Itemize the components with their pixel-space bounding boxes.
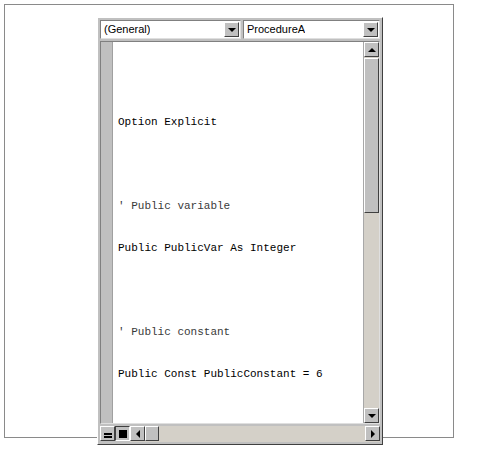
triangle-up-icon	[368, 48, 376, 52]
chevron-down-icon	[367, 28, 375, 32]
triangle-right-icon	[371, 430, 375, 438]
figure-frame: (General) ProcedureA	[4, 4, 454, 438]
code-line	[118, 157, 379, 171]
bottom-bar	[100, 425, 380, 442]
procedure-combo[interactable]: ProcedureA	[243, 20, 380, 39]
triangle-down-icon	[368, 414, 376, 418]
combo-bar: (General) ProcedureA	[100, 20, 380, 40]
code-editor-region: Option Explicit ' Public variable Public…	[100, 41, 380, 424]
scroll-up-button[interactable]	[364, 42, 379, 57]
vertical-scrollbar-thumb[interactable]	[364, 58, 379, 213]
vertical-scrollbar[interactable]	[363, 42, 379, 423]
code-line	[118, 409, 379, 423]
horizontal-scrollbar-thumb[interactable]	[145, 426, 159, 441]
procedure-view-button[interactable]	[100, 426, 115, 441]
triangle-left-icon	[136, 430, 140, 438]
vba-code-window: (General) ProcedureA	[97, 17, 383, 445]
object-combo-dropdown-button[interactable]	[224, 22, 239, 37]
procedure-combo-value: ProcedureA	[244, 21, 305, 38]
procedure-combo-dropdown-button[interactable]	[363, 22, 378, 37]
procedure-view-icon	[104, 433, 112, 435]
code-text-area[interactable]: Option Explicit ' Public variable Public…	[113, 42, 379, 423]
scroll-left-button[interactable]	[130, 426, 145, 441]
object-combo-value: (General)	[101, 21, 150, 38]
chevron-down-icon	[228, 28, 236, 32]
horizontal-scrollbar[interactable]	[130, 426, 380, 442]
code-content: Option Explicit ' Public variable Public…	[113, 42, 379, 423]
code-line: Public PublicVar As Integer	[118, 241, 379, 255]
margin-indicator-bar[interactable]	[101, 42, 113, 423]
object-combo[interactable]: (General)	[100, 20, 241, 39]
code-line: ' Public constant	[118, 325, 379, 339]
declarations-section: Option Explicit ' Public variable Public…	[118, 87, 379, 423]
code-line: ' Public variable	[118, 199, 379, 213]
full-module-view-icon	[119, 430, 127, 438]
code-line	[118, 283, 379, 297]
full-module-view-button[interactable]	[115, 426, 130, 441]
code-line: Option Explicit	[118, 115, 379, 129]
scroll-down-button[interactable]	[364, 408, 379, 423]
code-line: Public Const PublicConstant = 6	[118, 367, 379, 381]
scroll-right-button[interactable]	[365, 426, 380, 441]
horizontal-scrollbar-track[interactable]	[159, 426, 365, 442]
code-window-inner: (General) ProcedureA	[100, 20, 380, 442]
